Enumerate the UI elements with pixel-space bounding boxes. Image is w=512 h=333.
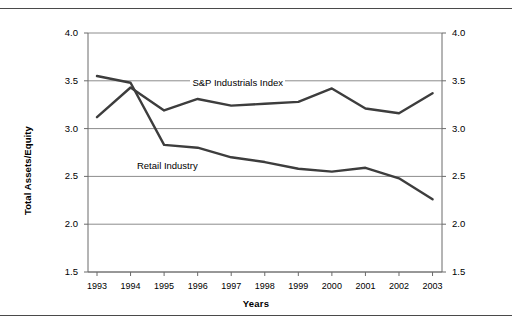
x-tick-label: 1994 xyxy=(114,281,148,291)
x-tick-label: 1995 xyxy=(147,281,181,291)
y-axis-title: Total Assets/Equity xyxy=(22,126,33,215)
x-tick-label: 2003 xyxy=(416,281,450,291)
y-tick-label-left: 4.0 xyxy=(48,27,78,38)
tick-marks xyxy=(84,33,446,276)
y-tick-label-left: 2.5 xyxy=(48,170,78,181)
y-tick-label-right: 3.5 xyxy=(452,75,482,86)
gridlines xyxy=(88,33,442,272)
x-tick-label: 2000 xyxy=(315,281,349,291)
x-tick-label: 2001 xyxy=(348,281,382,291)
series-paths xyxy=(97,76,433,199)
y-tick-label-left: 3.5 xyxy=(48,75,78,86)
y-tick-label-right: 3.0 xyxy=(452,123,482,134)
x-tick-label: 2002 xyxy=(382,281,416,291)
y-tick-label-left: 1.5 xyxy=(48,266,78,277)
x-tick-label: 1996 xyxy=(181,281,215,291)
series-label-1: S&P Industrials Index xyxy=(190,77,285,88)
chart-figure: 4.03.53.02.52.01.5 4.03.53.02.52.01.5 19… xyxy=(0,0,512,333)
y-tick-label-right: 2.0 xyxy=(452,218,482,229)
x-tick-label: 1999 xyxy=(281,281,315,291)
y-tick-label-right: 2.5 xyxy=(452,170,482,181)
x-axis-title: Years xyxy=(0,298,512,309)
y-tick-label-left: 3.0 xyxy=(48,123,78,134)
y-tick-label-right: 4.0 xyxy=(452,27,482,38)
y-tick-label-right: 1.5 xyxy=(452,266,482,277)
y-tick-label-left: 2.0 xyxy=(48,218,78,229)
x-tick-label: 1998 xyxy=(248,281,282,291)
axis-lines xyxy=(88,33,442,272)
series-line-2 xyxy=(97,76,433,199)
x-tick-label: 1993 xyxy=(80,281,114,291)
series-label-2: Retail Industry xyxy=(135,160,200,171)
x-tick-label: 1997 xyxy=(214,281,248,291)
